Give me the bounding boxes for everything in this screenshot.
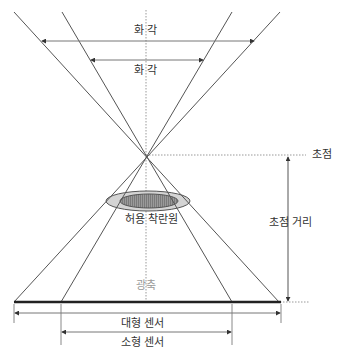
focal-length-label: 초점 거리 — [269, 217, 313, 229]
large-sensor-label: 대형 센서 — [121, 318, 165, 330]
small-sensor-label: 소형 센서 — [121, 337, 165, 349]
angle-of-view-wide-label: 화 각 — [134, 25, 158, 37]
optical-axis-label: 광축 — [136, 280, 156, 292]
diagram-canvas — [0, 0, 341, 356]
circle-of-confusion-label: 허용 착란원 — [125, 214, 179, 226]
circle-of-confusion-inner — [120, 194, 178, 208]
angle-of-view-narrow-label: 화 각 — [134, 65, 158, 77]
focal-point-label: 초점 — [312, 149, 332, 161]
